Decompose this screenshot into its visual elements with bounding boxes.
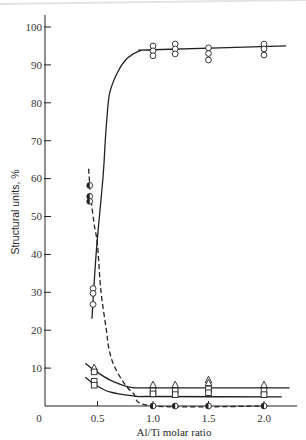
series-triangle-open: [91, 364, 267, 387]
y-tick-label: 100: [26, 21, 43, 33]
y-tick-label: 30: [31, 286, 43, 298]
y-tick-label: 20: [31, 324, 43, 336]
x-tick-label: 0.5: [91, 412, 105, 424]
fit-curve-circle-half: [89, 169, 270, 407]
x-axis-label: Al/Ti molar ratio: [137, 426, 212, 438]
y-tick-label: 10: [31, 362, 43, 374]
fit-curve-square-open: [85, 377, 281, 397]
open-circle-marker: [206, 45, 212, 51]
y-tick-label: 90: [31, 59, 43, 71]
plot-area: 1020304050607080901000.51.01.52.00: [0, 0, 306, 440]
origin-label: 0: [36, 412, 42, 424]
open-square-marker: [206, 390, 212, 396]
y-tick-label: 60: [31, 172, 43, 184]
open-triangle-marker: [261, 381, 268, 387]
open-circle-marker: [172, 51, 178, 57]
open-circle-marker: [206, 51, 212, 57]
y-tick-label: 70: [31, 135, 43, 147]
open-triangle-marker: [172, 381, 179, 387]
open-circle-marker: [261, 52, 267, 58]
open-square-marker: [261, 392, 267, 398]
open-circle-marker: [150, 53, 156, 59]
series-circle-half: [87, 183, 267, 409]
series-circle-open: [90, 41, 267, 307]
open-circle-marker: [261, 46, 267, 52]
open-circle-marker: [206, 57, 212, 63]
open-square-marker: [91, 382, 97, 388]
x-tick-label: 2.0: [257, 412, 271, 424]
fit-curve-triangle-open: [85, 363, 289, 388]
open-square-marker: [91, 369, 97, 375]
fit-curve-circle-open: [92, 46, 286, 319]
y-tick-label: 80: [31, 97, 43, 109]
open-square-marker: [150, 391, 156, 397]
x-tick-label: 1.5: [202, 412, 216, 424]
open-circle-marker: [90, 291, 96, 297]
y-axis-label: Structural units, %: [9, 169, 21, 254]
chart-figure: 1020304050607080901000.51.01.52.00 Al/Ti…: [0, 0, 306, 440]
page-edge: [0, 0, 306, 4]
x-tick-label: 1.0: [146, 412, 160, 424]
y-tick-label: 40: [31, 248, 43, 260]
open-square-marker: [172, 392, 178, 398]
open-triangle-marker: [150, 381, 157, 387]
open-circle-marker: [90, 302, 96, 308]
y-tick-label: 50: [31, 210, 43, 222]
